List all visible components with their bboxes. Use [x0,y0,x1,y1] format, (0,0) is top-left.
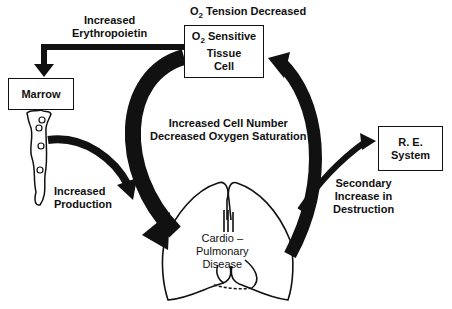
left-arc-arrow [133,57,184,232]
cardio-pulmonary-disease-label: Cardio – Pulmonary Disease [196,232,249,271]
arrowhead-re [360,133,376,150]
increased-erythropoietin-label: Increased Erythropoietin [72,14,147,40]
marrow-box: Marrow [8,78,74,110]
center-label: Increased Cell Number Decreased Oxygen S… [150,117,307,143]
secondary-destruction-label: Secondary Increase in Destruction [333,177,394,216]
production-arrow [48,139,128,185]
bone-icon [27,110,51,205]
o2-sensitive-tissue-cell-box: O2 Sensitive Tissue Cell [184,25,264,78]
re-system-box: R. E. System [378,126,443,171]
o2-tension-label: O2 Tension Decreased [190,5,306,22]
right-arc-arrow [280,62,315,255]
increased-production-label: Increased Production [54,185,112,211]
arrowhead-marrow [34,64,54,77]
